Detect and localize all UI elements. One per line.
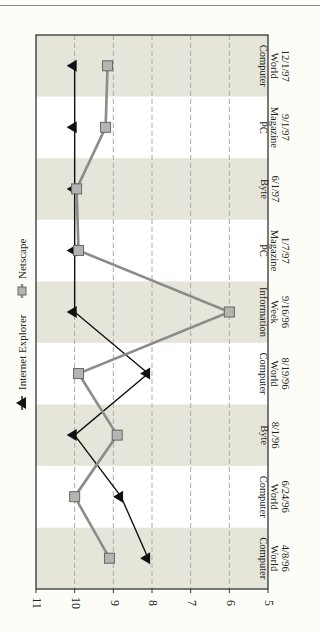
category-label-line: Computer: [258, 476, 269, 518]
tick-label: 11: [30, 597, 44, 609]
legend: Internet ExplorerNetscape: [16, 239, 28, 410]
tick-label: 9: [108, 600, 122, 606]
square-marker-icon: [101, 122, 111, 132]
triangle-legend-icon: [16, 397, 26, 409]
category-label: ComputerWorld6/24/96: [258, 476, 291, 518]
category-label-line: 8/19/96: [280, 358, 291, 390]
category-label-line: Computer: [258, 353, 269, 395]
square-marker-icon: [70, 492, 80, 502]
category-label: Byte6/1/97: [259, 175, 281, 202]
square-marker-icon: [74, 245, 84, 255]
tick-label: 7: [185, 600, 199, 606]
category-label-line: PC: [258, 121, 269, 134]
category-label: Byte8/1/96: [259, 422, 281, 449]
category-label-line: Information: [258, 287, 269, 338]
value-axis: 111098765: [30, 589, 276, 609]
category-label-line: 12/1/97: [280, 50, 291, 82]
legend-label-netscape: Netscape: [16, 239, 28, 279]
category-label-line: Magazine: [269, 230, 280, 272]
square-marker-icon: [112, 430, 122, 440]
category-label-line: World: [269, 545, 280, 572]
square-marker-icon: [74, 369, 84, 379]
square-legend-icon: [18, 287, 26, 295]
tick-label: 8: [146, 600, 160, 606]
square-marker-icon: [103, 61, 113, 71]
legend-group: Internet ExplorerNetscape: [16, 239, 28, 410]
category-label-line: 4/8/96: [280, 545, 291, 572]
category-label: ComputerWorld4/8/96: [258, 537, 291, 579]
category-label-line: Week: [269, 300, 280, 324]
category-label-line: 9/16/96: [280, 296, 291, 328]
category-axis: ComputerWorld4/8/96ComputerWorld6/24/96B…: [258, 45, 291, 580]
category-label-line: 6/1/97: [270, 175, 281, 202]
category-label-line: 8/1/96: [270, 422, 281, 449]
line-chart: 111098765 ComputerWorld4/8/96ComputerWor…: [0, 0, 320, 633]
category-label-line: World: [269, 361, 280, 388]
category-label-line: Magazine: [269, 107, 280, 149]
tick-label: 10: [69, 597, 83, 609]
square-marker-icon: [224, 307, 234, 317]
category-label-line: World: [269, 484, 280, 511]
category-label-line: World: [269, 53, 280, 80]
category-label-line: 9/1/97: [280, 114, 291, 141]
category-label: ComputerWorld8/19/96: [258, 353, 291, 395]
category-label-line: Computer: [258, 45, 269, 87]
tick-label: 6: [224, 600, 238, 606]
category-label-line: 1/7/97: [280, 237, 291, 264]
category-label-line: Byte: [259, 425, 270, 445]
category-label-line: 6/24/96: [280, 481, 291, 513]
category-label: InformationWeek9/16/96: [258, 287, 291, 338]
tick-label: 5: [262, 600, 276, 606]
category-label: ComputerWorld12/1/97: [258, 45, 291, 87]
legend-label-ie: Internet Explorer: [16, 314, 28, 390]
category-label-line: PC: [258, 244, 269, 257]
square-marker-icon: [104, 553, 114, 563]
square-marker-icon: [72, 184, 82, 194]
category-label-line: Computer: [258, 537, 269, 579]
category-label-line: Byte: [259, 179, 270, 199]
